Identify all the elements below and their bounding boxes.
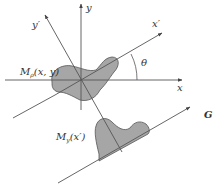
projection-diagram: x y x′ y′ θ G Mρ(x, y) My(x′) xyxy=(0,0,215,189)
angle-label: θ xyxy=(141,57,147,68)
object-shape xyxy=(52,57,118,101)
y-axis-label: y xyxy=(85,2,92,13)
lower-boundary-line xyxy=(13,95,55,118)
angle-arc xyxy=(131,54,137,80)
projection-shape xyxy=(95,119,149,161)
x-axis-label: x xyxy=(177,82,183,93)
projection-function-label: My(x′) xyxy=(55,131,85,144)
y-prime-axis-label: y′ xyxy=(31,19,41,30)
projection-line-g xyxy=(58,107,190,183)
x-prime-axis-label: x′ xyxy=(152,18,161,29)
g-label: G xyxy=(204,109,213,120)
